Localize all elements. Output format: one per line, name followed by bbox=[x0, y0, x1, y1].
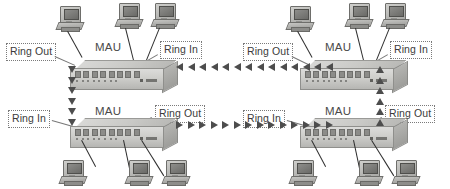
screen-icon bbox=[133, 163, 148, 174]
ring-arrow-down bbox=[68, 66, 76, 73]
status-led bbox=[323, 80, 325, 82]
workstation-icon bbox=[287, 6, 313, 31]
ring-arrow-right bbox=[199, 121, 206, 129]
ring-arrow-left bbox=[314, 63, 321, 71]
mau-port[interactable] bbox=[117, 71, 123, 78]
ring-arrow-down bbox=[68, 87, 76, 94]
screen-icon bbox=[67, 163, 82, 174]
status-led bbox=[317, 138, 319, 140]
mau-port[interactable] bbox=[83, 71, 89, 78]
computer-base bbox=[64, 181, 83, 186]
status-led bbox=[87, 138, 89, 140]
mau-device-label: MAU bbox=[95, 41, 121, 53]
status-led bbox=[104, 138, 106, 140]
status-led bbox=[98, 80, 100, 82]
mau-port[interactable] bbox=[364, 129, 370, 136]
workstation-icon bbox=[57, 6, 83, 31]
mau-indicator bbox=[370, 79, 373, 82]
mau-port[interactable] bbox=[347, 71, 353, 78]
ring-arrow-left bbox=[326, 63, 333, 71]
ring-out-label: Ring Out bbox=[6, 43, 56, 61]
mau-port[interactable] bbox=[330, 71, 336, 78]
screen-icon bbox=[389, 6, 404, 17]
mau-port[interactable] bbox=[109, 129, 115, 136]
mau-port[interactable] bbox=[305, 129, 311, 136]
status-led bbox=[76, 138, 78, 140]
workstation-icon bbox=[163, 160, 189, 185]
status-led bbox=[110, 80, 112, 82]
status-led bbox=[340, 138, 342, 140]
status-led bbox=[115, 80, 117, 82]
ring-arrow-left bbox=[188, 63, 195, 71]
mau-port[interactable] bbox=[75, 129, 81, 136]
mau-port[interactable] bbox=[92, 129, 98, 136]
mau-port[interactable] bbox=[322, 71, 328, 78]
mau-port[interactable] bbox=[364, 71, 370, 78]
workstation-icon bbox=[152, 3, 178, 28]
mau-port[interactable] bbox=[125, 71, 131, 78]
token-ring-diagram: MAU Ring Out Ring In bbox=[0, 0, 450, 189]
mau-port[interactable] bbox=[100, 71, 106, 78]
mau-port[interactable] bbox=[339, 129, 345, 136]
ring-arrow-left bbox=[176, 63, 183, 71]
ring-arrow-right bbox=[222, 121, 229, 129]
ring-out-label: Ring Out bbox=[243, 43, 293, 61]
workstation-icon bbox=[60, 160, 86, 185]
ring-arrow-up bbox=[376, 108, 384, 115]
ring-arrow-up bbox=[376, 77, 384, 84]
mau-port[interactable] bbox=[83, 129, 89, 136]
status-led bbox=[82, 80, 84, 82]
computer-base bbox=[167, 181, 186, 186]
mau-led-row bbox=[306, 80, 347, 82]
computer-base bbox=[291, 27, 310, 32]
mau-port[interactable] bbox=[305, 71, 311, 78]
computer-base bbox=[360, 181, 379, 186]
ring-arrow-down bbox=[68, 119, 76, 126]
mau-port[interactable] bbox=[92, 71, 98, 78]
connection-wire bbox=[125, 28, 135, 63]
mau-device-label: MAU bbox=[95, 105, 121, 117]
ring-arrow-left bbox=[268, 63, 275, 71]
mau-port[interactable] bbox=[355, 71, 361, 78]
screen-icon bbox=[297, 163, 312, 174]
mau-port[interactable] bbox=[322, 129, 328, 136]
screen-icon bbox=[400, 163, 415, 174]
status-led bbox=[317, 80, 319, 82]
mau-port[interactable] bbox=[100, 129, 106, 136]
mau-indicator bbox=[140, 79, 143, 82]
screen-icon bbox=[123, 6, 138, 17]
mau-port[interactable] bbox=[134, 71, 140, 78]
connection-wire bbox=[297, 31, 313, 58]
mau-port-row bbox=[305, 71, 370, 78]
mau-port[interactable] bbox=[117, 129, 123, 136]
ring-arrow-left bbox=[303, 63, 310, 71]
mau-port[interactable] bbox=[125, 129, 131, 136]
status-led bbox=[345, 80, 347, 82]
status-led bbox=[345, 138, 347, 140]
ring-arrow-left bbox=[211, 63, 218, 71]
ring-arrow-up bbox=[376, 119, 384, 126]
mau-port[interactable] bbox=[313, 129, 319, 136]
mau-port[interactable] bbox=[109, 71, 115, 78]
mau-port[interactable] bbox=[134, 129, 140, 136]
ring-arrow-left bbox=[199, 63, 206, 71]
mau-device[interactable] bbox=[70, 60, 178, 90]
status-led bbox=[312, 80, 314, 82]
computer-base bbox=[120, 24, 139, 29]
mau-port[interactable] bbox=[347, 129, 353, 136]
ring-in-label: Ring In bbox=[160, 41, 202, 59]
status-led bbox=[323, 138, 325, 140]
ring-arrow-right bbox=[188, 121, 195, 129]
ring-arrow-up bbox=[376, 87, 384, 94]
ring-arrow-down bbox=[68, 77, 76, 84]
computer-base bbox=[61, 27, 80, 32]
status-led bbox=[306, 138, 308, 140]
mau-port[interactable] bbox=[339, 71, 345, 78]
status-led bbox=[340, 80, 342, 82]
ring-arrow-right bbox=[326, 121, 333, 129]
mau-port[interactable] bbox=[330, 129, 336, 136]
status-led bbox=[115, 138, 117, 140]
mau-port[interactable] bbox=[313, 71, 319, 78]
workstation-icon bbox=[393, 160, 419, 185]
mau-port[interactable] bbox=[355, 129, 361, 136]
